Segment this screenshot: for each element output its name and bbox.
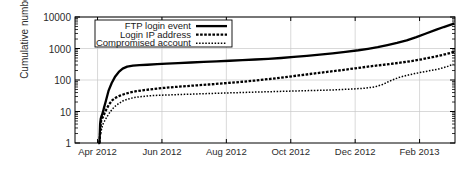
- legend-label: Compromised account: [96, 37, 191, 48]
- cumulative-number-chart: Cumulative number 110100100010000 FTP lo…: [0, 0, 468, 171]
- x-axis-tick-label: Jun 2012: [142, 146, 181, 157]
- x-axis-tick-label: Aug 2012: [206, 146, 247, 157]
- x-axis-tick-label: Apr 2012: [78, 146, 117, 157]
- series-line-dotted: [101, 64, 454, 133]
- x-axis-tick-label: Feb 2013: [399, 146, 439, 157]
- x-axis-tick-label: Oct 2012: [271, 146, 310, 157]
- x-axis-tick-label: Dec 2012: [335, 146, 376, 157]
